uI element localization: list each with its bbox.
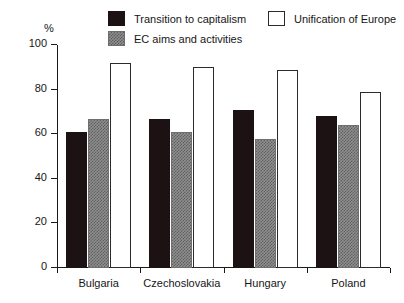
y-axis-tick: 40 [51, 178, 57, 179]
bar [88, 119, 109, 268]
y-axis-unit-label: % [44, 22, 54, 34]
legend-swatch-icon [108, 31, 125, 46]
y-axis-tick: 80 [51, 89, 57, 90]
legend-item-label: Transition to capitalism [134, 13, 246, 25]
y-axis-tick: 20 [51, 222, 57, 223]
x-axis-category-label: Poland [331, 277, 365, 289]
y-axis-tick-label: 0 [41, 260, 47, 272]
bar [171, 132, 192, 268]
bar [149, 119, 170, 268]
x-axis-category-label: Czechoslovakia [143, 277, 220, 289]
y-axis-tick: 60 [51, 133, 57, 134]
y-axis-tick-label: 60 [35, 126, 47, 138]
bar [233, 110, 254, 268]
bar [66, 132, 87, 268]
legend-swatch-icon [268, 11, 285, 26]
bar [193, 67, 214, 268]
y-axis-tick-label: 40 [35, 171, 47, 183]
bar [360, 92, 381, 268]
plot-area: 020406080100 [57, 45, 390, 268]
y-axis-tick-label: 80 [35, 82, 47, 94]
legend-item-label: EC aims and activities [134, 33, 242, 45]
legend-item-label: Unification of Europe [294, 13, 396, 25]
legend-swatch-icon [108, 11, 125, 26]
y-axis-tick-label: 100 [29, 37, 47, 49]
x-axis-tick [140, 268, 141, 273]
bar [338, 125, 359, 268]
x-axis-tick [224, 268, 225, 273]
legend-item-ec-aims-and-activities: EC aims and activities [108, 31, 242, 46]
x-axis-tick [57, 268, 58, 273]
bar-chart: Transition to capitalism EC aims and act… [0, 0, 404, 303]
y-axis-tick-label: 20 [35, 215, 47, 227]
legend-item-unification-of-europe: Unification of Europe [268, 11, 396, 26]
bar [277, 70, 298, 268]
bar [255, 139, 276, 268]
bar [110, 63, 131, 268]
x-axis-category-label: Hungary [244, 277, 286, 289]
y-axis-tick: 100 [51, 44, 57, 45]
legend-item-transition-to-capitalism: Transition to capitalism [108, 11, 246, 26]
x-axis-tick [307, 268, 308, 273]
bar [316, 116, 337, 268]
y-axis-line [57, 45, 58, 269]
x-axis-tick [390, 268, 391, 273]
x-axis-category-label: Bulgaria [78, 277, 118, 289]
